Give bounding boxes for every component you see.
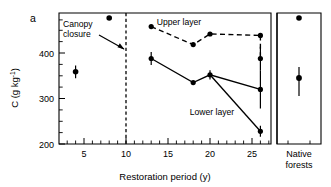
series-upper-layer (149, 24, 263, 70)
native-forests-label-line2: forests (285, 160, 313, 170)
y-axis-title-main: C (g kg (9, 77, 20, 108)
x-tick-label-10: 10 (121, 149, 131, 159)
y-axis-title-tail: ) (9, 68, 20, 71)
x-axis-ticks (67, 138, 310, 144)
y-tick-label-200: 200 (39, 140, 54, 150)
y-tick-labels: 400 300 200 (39, 49, 54, 150)
x-axis-title: Restoration period (y) (119, 171, 210, 182)
data-point-lower-26-branch (258, 129, 263, 134)
data-point-lower-13 (149, 56, 154, 61)
canopy-closure-annotation: Canopy closure (63, 19, 125, 50)
data-point-upper-18 (191, 42, 196, 47)
preclosure-low-point-group (73, 66, 79, 79)
x-tick-label-25: 25 (247, 149, 257, 159)
x-tick-label-5: 5 (81, 149, 86, 159)
plot-border (59, 13, 271, 144)
upper-layer-series-label: Upper layer (157, 17, 202, 27)
figure-panel-a: 400 300 200 C (g kg-1) (0, 0, 331, 187)
y-tick-label-400: 400 (39, 49, 54, 59)
data-point-upper-26 (258, 33, 263, 38)
data-point-lower-18 (191, 80, 196, 85)
canopy-closure-text-line2: closure (63, 29, 91, 39)
lower-layer-branch-line (210, 75, 260, 132)
data-point-upper-13 (149, 24, 154, 29)
data-point-native-upper (296, 15, 302, 21)
chart-svg: 400 300 200 C (g kg-1) (0, 0, 331, 187)
plot-frame (59, 13, 321, 144)
x-tick-label-20: 20 (205, 149, 215, 159)
native-forests-label-line1: Native (286, 149, 312, 159)
lower-layer-series-label: Lower layer (190, 107, 235, 117)
data-point-upper-20 (207, 31, 212, 36)
panel-label-a: a (30, 12, 36, 24)
x-tick-labels: 5 10 15 20 25 (81, 149, 257, 159)
y-axis-title: C (g kg-1) (9, 68, 21, 108)
lower-layer-line (151, 59, 260, 90)
data-point-preclosure-high (106, 15, 112, 21)
svg-text:C (g kg-1): C (g kg-1) (9, 68, 21, 108)
y-tick-label-300: 300 (39, 94, 54, 104)
data-point-native-lower (296, 75, 302, 81)
canopy-closure-text-line1: Canopy (63, 19, 93, 29)
data-point-lower-20 (207, 72, 212, 77)
native-forests-data (296, 15, 302, 96)
canopy-closure-arrow-head (118, 43, 125, 49)
native-forests-axis-label: Native forests (285, 149, 313, 170)
data-point-upper-26-secondary (258, 56, 263, 61)
upper-layer-line (151, 27, 260, 45)
data-point-lower-26 (258, 87, 263, 92)
data-point-preclosure-low (73, 69, 79, 75)
x-tick-label-15: 15 (163, 149, 173, 159)
series-lower-layer (149, 52, 263, 137)
